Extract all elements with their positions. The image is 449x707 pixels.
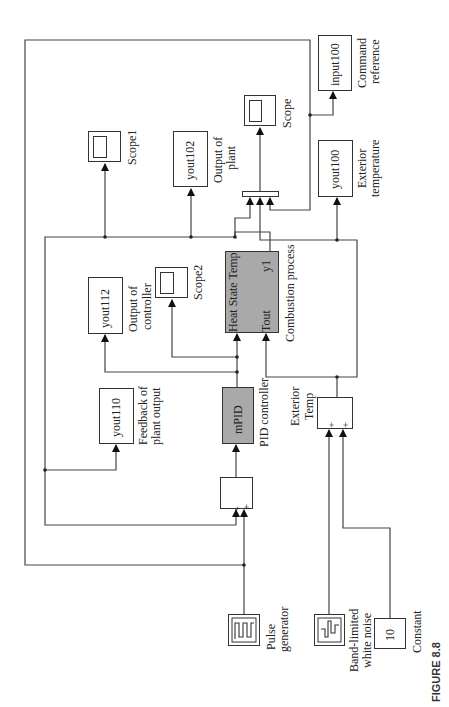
mux-block[interactable]: [242, 191, 279, 197]
pid-text: mPID: [232, 405, 245, 434]
plant-input-heat-state-temp: Heat State Temp: [227, 252, 240, 332]
constant-value: 10: [384, 629, 397, 641]
scope-screen-icon: [93, 136, 107, 158]
yout102-text: yout102: [184, 141, 197, 180]
noise-wave-icon: [315, 615, 344, 645]
wire-to-mux1: [235, 198, 250, 237]
figure-label: FIGURE 8.8: [430, 642, 442, 702]
ext-sum-sign-1: +: [325, 422, 338, 428]
plant-input-tout: Tout: [260, 310, 273, 332]
wire-y1-up: [235, 232, 270, 251]
scope-block[interactable]: [244, 95, 276, 126]
sum-sign-plus: +: [240, 504, 253, 510]
scope2-label: Scope2: [192, 265, 205, 300]
wire-to-mux2: [260, 198, 337, 240]
pulse-wave-icon: [229, 615, 259, 645]
wire-ext-up: [337, 240, 357, 377]
yout110-text: yout110: [110, 398, 123, 437]
constant-label: Constant: [411, 610, 424, 653]
yout102-label-2: plant: [225, 146, 238, 170]
pid-controller-block[interactable]: mPID: [222, 387, 254, 444]
yout112-block[interactable]: yout112: [88, 277, 123, 334]
yout112-text: yout112: [99, 289, 112, 328]
wire-outer-to-input100: [310, 92, 333, 115]
scope-screen-icon: [160, 272, 174, 294]
scope1-block[interactable]: [88, 131, 121, 162]
wire-constant-to-sum: [343, 430, 390, 618]
wire-to-tout: [266, 334, 337, 377]
sum-error-block[interactable]: - +: [220, 477, 253, 509]
yout112-label-1: Output of: [127, 286, 140, 332]
input100-text: input100: [329, 43, 342, 86]
input100-label-2: reference: [369, 39, 382, 84]
pulse-generator-label-2: generator: [278, 607, 291, 652]
scope2-block[interactable]: [155, 267, 188, 298]
combustion-process-label: Combustion process: [284, 244, 297, 342]
pid-controller-label: PID controller: [258, 378, 271, 447]
wire-outer-to-mux3: [270, 198, 280, 210]
input100-block[interactable]: input100: [318, 35, 352, 91]
plant-output-y1: y1: [260, 260, 273, 272]
yout110-label-2: plant output: [150, 387, 163, 445]
yout112-label-2: controller: [141, 283, 154, 330]
noise-label-2: white noise: [361, 613, 374, 668]
wire-yout110-feed: [45, 445, 116, 470]
exterior-temp-sum-block[interactable]: + +: [317, 397, 353, 429]
wiring-layer: [0, 0, 449, 707]
wire-feedback-loop: [45, 237, 236, 525]
band-limited-white-noise-block[interactable]: [314, 614, 345, 646]
pulse-generator-block[interactable]: [228, 614, 260, 646]
ext-sum-sign-2: +: [339, 422, 352, 428]
scope-screen-icon: [249, 100, 262, 122]
constant-block[interactable]: 10: [374, 618, 406, 649]
yout100-block[interactable]: yout100: [318, 140, 353, 197]
yout100-label-2: temperature: [369, 140, 382, 197]
yout100-text: yout100: [329, 150, 342, 189]
exterior-temp-label-1: Exterior: [289, 387, 302, 426]
exterior-temp-label-2: Temp: [303, 393, 316, 420]
combustion-process-block[interactable]: Heat State Temp Tout y1: [225, 251, 279, 333]
yout110-block[interactable]: yout110: [99, 388, 134, 444]
scope-label: Scope: [281, 99, 294, 128]
yout102-block[interactable]: yout102: [173, 131, 208, 187]
scope1-label: Scope1: [126, 130, 139, 165]
wire-pid-to-yout112: [105, 335, 237, 372]
